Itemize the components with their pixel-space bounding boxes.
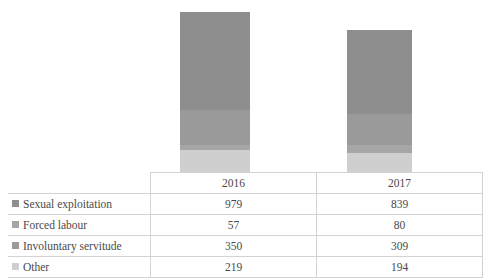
bar-column-2017 — [347, 30, 412, 172]
row-label-other: Other — [8, 257, 151, 278]
cell-forced-labour-2016: 57 — [151, 215, 317, 236]
row-label-involuntary-servitude: Involuntary servitude — [8, 236, 151, 257]
bar-column-2016 — [180, 12, 250, 172]
row-label-sexual-exploitation: Sexual exploitation — [8, 194, 151, 215]
cell-other-2016: 219 — [151, 257, 317, 278]
bar-segment-2017-forced-labour — [347, 145, 412, 153]
bar-segment-2017-involuntary-servitude — [347, 114, 412, 145]
table-corner-cell — [8, 173, 151, 194]
cell-forced-labour-2017: 80 — [317, 215, 483, 236]
table-header-row: 2016 2017 — [8, 173, 483, 194]
cell-involuntary-servitude-2016: 350 — [151, 236, 317, 257]
bar-segment-2016-involuntary-servitude — [180, 110, 250, 145]
cell-involuntary-servitude-2017: 309 — [317, 236, 483, 257]
row-label-forced-labour: Forced labour — [8, 215, 151, 236]
bar-segment-2017-other — [347, 153, 412, 172]
chart-data-table: 2016 2017 Sexual exploitation 979 839 Fo… — [8, 172, 483, 278]
legend-key-icon — [12, 242, 19, 249]
bar-segment-2017-sexual-exploitation — [347, 30, 412, 114]
legend-key-icon — [12, 200, 19, 207]
table-row: Involuntary servitude 350 309 — [8, 236, 483, 257]
table-row: Sexual exploitation 979 839 — [8, 194, 483, 215]
cell-sexual-exploitation-2016: 979 — [151, 194, 317, 215]
table-row: Forced labour 57 80 — [8, 215, 483, 236]
table-row: Other 219 194 — [8, 257, 483, 278]
cell-sexual-exploitation-2017: 839 — [317, 194, 483, 215]
stacked-bar-chart — [0, 0, 464, 172]
cell-other-2017: 194 — [317, 257, 483, 278]
legend-key-icon — [12, 263, 19, 270]
column-header-2017: 2017 — [317, 173, 483, 194]
bar-segment-2016-sexual-exploitation — [180, 12, 250, 110]
legend-key-icon — [12, 221, 19, 228]
column-header-2016: 2016 — [151, 173, 317, 194]
bar-segment-2016-other — [180, 150, 250, 172]
